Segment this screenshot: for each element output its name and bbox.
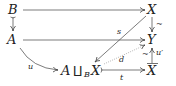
label-s: s: [117, 28, 121, 36]
label-u-prime: u′: [156, 49, 163, 57]
coproduct-symbol: ⨿: [73, 64, 82, 77]
pushout-subscript: B: [84, 71, 90, 79]
label-d: d: [119, 56, 124, 64]
label-tilde-x-y: ~: [156, 21, 163, 29]
label-u: u: [28, 63, 33, 71]
node-a: A: [7, 33, 16, 46]
node-xbar: X: [147, 64, 156, 77]
node-y: Y: [147, 33, 156, 46]
arrow-u: [20, 48, 58, 70]
node-b: B: [8, 3, 18, 16]
label-tilde-xbar-y: ~: [142, 51, 149, 59]
node-pushout-a: A: [61, 64, 70, 77]
label-t: t: [120, 74, 123, 82]
arrow-d: [104, 45, 145, 64]
node-x: X: [147, 3, 156, 16]
node-pushout-x: X: [91, 64, 100, 77]
